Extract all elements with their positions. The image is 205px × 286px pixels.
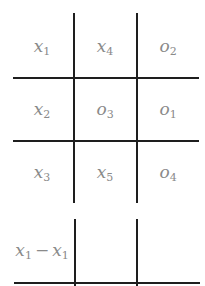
- cell-sub: 2: [170, 45, 177, 58]
- cell-r2-c1: x2: [34, 99, 51, 121]
- cell-r2-c3: o1: [159, 99, 176, 121]
- grid-vline-1-upper: [73, 13, 75, 203]
- cell-var: o: [96, 99, 106, 119]
- cell-sub: 4: [170, 171, 177, 184]
- cell-r2-c2: o3: [96, 99, 113, 121]
- cell-var: x: [34, 36, 44, 56]
- cell-r3-c2: x5: [97, 162, 114, 184]
- cell-sub: 1: [170, 108, 177, 121]
- cell-var: x: [34, 99, 44, 119]
- cell-sub: 1: [62, 249, 69, 262]
- cell-r1-c2: x4: [97, 36, 114, 58]
- cell-var: o: [159, 36, 169, 56]
- cell-r1-c1: x1: [34, 36, 51, 58]
- cell-sub: 5: [106, 171, 113, 184]
- cell-sub: 1: [43, 45, 50, 58]
- cell-sub: 2: [43, 108, 50, 121]
- cell-sub: 3: [107, 108, 114, 121]
- cell-var: o: [159, 99, 169, 119]
- minus-operator: −: [32, 240, 52, 260]
- cell-sub: 3: [43, 171, 50, 184]
- grid-hline-1: [13, 77, 199, 79]
- cell-r3-c1: x3: [34, 162, 51, 184]
- grid-hline-2: [13, 140, 199, 142]
- grid-vline-2-upper: [136, 13, 138, 203]
- cell-var: x: [97, 36, 107, 56]
- cell-sub: 1: [25, 249, 32, 262]
- grid-hline-3: [14, 282, 200, 284]
- cell-extra-left: x1−x1: [15, 240, 68, 262]
- cell-var: x: [15, 240, 25, 260]
- cell-var: x: [97, 162, 107, 182]
- grid-vline-1-lower: [74, 219, 76, 286]
- cell-var: x: [34, 162, 44, 182]
- cell-r1-c3: o2: [159, 36, 176, 58]
- grid-vline-2-lower: [136, 219, 138, 286]
- cell-sub: 4: [106, 45, 113, 58]
- cell-var: o: [159, 162, 169, 182]
- cell-var: x: [52, 240, 62, 260]
- cell-r3-c3: o4: [159, 162, 176, 184]
